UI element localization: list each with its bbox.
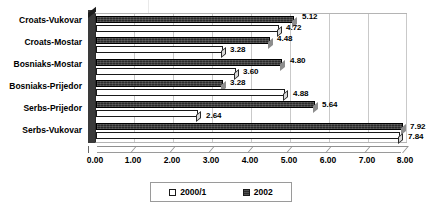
- category-label: Croats-Mostar: [0, 38, 82, 47]
- data-label-2000-1: 4.72: [286, 24, 302, 32]
- data-label-2000-1: 2.64: [206, 112, 222, 120]
- data-label-2002: 3.28: [230, 79, 246, 87]
- data-label-2002: 5.12: [302, 13, 318, 21]
- bar-2000-1: [96, 110, 198, 117]
- legend-item-2000-1[interactable]: 2000/1: [169, 188, 206, 197]
- x-tick-label: 8.00: [397, 155, 414, 165]
- chart-legend: 2000/1 2002: [150, 182, 292, 202]
- x-axis-tick: [402, 146, 416, 153]
- plot-area: 5.12 4.72 4.48 3.28 4.80 3.60 3.28 4.88 …: [88, 10, 408, 150]
- plot-canvas: [95, 13, 407, 143]
- bar-2002: [96, 37, 270, 44]
- bar-2002: [96, 16, 294, 23]
- data-label-2002: 5.64: [322, 101, 338, 109]
- bar-group-serbs-vukovar: [96, 121, 406, 142]
- category-label: Bosniaks-Prijedor: [0, 82, 82, 91]
- category-label: Bosniaks-Mostar: [0, 60, 82, 69]
- bar-rows: [96, 14, 406, 142]
- bar-group-croats-mostar: [96, 35, 406, 56]
- category-label: Croats-Vukovar: [0, 16, 82, 25]
- x-tick-label: 4.00: [242, 155, 259, 165]
- legend-swatch-icon: [243, 189, 250, 196]
- bar-2002: [96, 59, 282, 66]
- bar-2000-1: [96, 68, 236, 75]
- gridline: [406, 14, 407, 142]
- x-tick-label: 6.00: [320, 155, 337, 165]
- legend-label: 2002: [254, 188, 273, 197]
- bar-cap: [313, 102, 318, 113]
- bar-cap: [268, 38, 273, 49]
- x-tick-label: 0.00: [87, 155, 104, 165]
- legend-label: 2000/1: [180, 188, 206, 197]
- data-label-2002: 7.92: [410, 123, 426, 131]
- bar-group-croats-vukovar: [96, 14, 406, 35]
- bar-2002: [96, 80, 223, 87]
- data-label-2000-1: 4.88: [293, 90, 309, 98]
- legend-swatch-icon: [169, 189, 176, 196]
- bar-cap: [280, 60, 285, 71]
- data-label-2000-1: 7.84: [408, 133, 424, 141]
- bar-2000-1: [96, 46, 223, 53]
- bar-group-bosniaks-prijedor: [96, 78, 406, 99]
- x-axis-origin-cap: [88, 146, 97, 153]
- data-label-2002: 4.80: [290, 57, 306, 65]
- x-tick-label: 1.00: [125, 155, 142, 165]
- x-tick-label: 2.00: [164, 155, 181, 165]
- data-label-2002: 4.48: [277, 35, 293, 43]
- bar-2002: [96, 123, 403, 130]
- data-label-2000-1: 3.28: [230, 46, 246, 54]
- category-label: Serbs-Vukovar: [0, 126, 82, 135]
- category-axis-labels: Croats-Vukovar Croats-Mostar Bosniaks-Mo…: [0, 10, 86, 146]
- x-tick-label: 5.00: [281, 155, 298, 165]
- x-tick-label: 7.00: [359, 155, 376, 165]
- x-axis: [88, 143, 408, 155]
- bar-2000-1: [96, 132, 400, 139]
- category-label: Serbs-Prijedor: [0, 104, 82, 113]
- x-axis-tick-labels: 0.00 1.00 2.00 3.00 4.00 5.00 6.00 7.00 …: [88, 155, 418, 167]
- axis-depth-face: [88, 10, 95, 143]
- bar-2000-1: [96, 25, 279, 32]
- chart-container: Croats-Vukovar Croats-Mostar Bosniaks-Mo…: [0, 0, 437, 207]
- bar-2000-1: [96, 89, 285, 96]
- data-label-2000-1: 3.60: [243, 68, 259, 76]
- bar-2002: [96, 101, 315, 108]
- x-tick-label: 3.00: [203, 155, 220, 165]
- legend-item-2002[interactable]: 2002: [243, 188, 273, 197]
- bar-group-serbs-prijedor: [96, 99, 406, 120]
